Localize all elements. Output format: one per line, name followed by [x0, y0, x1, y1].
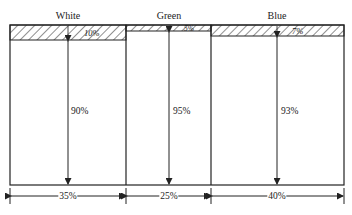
white-width-percent: 35%: [58, 191, 77, 201]
outer-frame: [10, 25, 344, 185]
green-width-percent: 25%: [159, 191, 178, 201]
green-bottom-percent: 95%: [173, 106, 190, 116]
green-top-percent: 5%: [184, 24, 194, 34]
column-header-white: White: [56, 11, 80, 21]
column-header-green: Green: [157, 11, 181, 21]
blue-top-percent: 7%: [292, 26, 303, 36]
column-header-blue: Blue: [268, 11, 287, 21]
blue-bottom-percent: 93%: [281, 106, 298, 116]
green-top-hatch: [126, 25, 211, 31]
blue-width-percent: 40%: [267, 191, 286, 201]
white-bottom-percent: 90%: [71, 106, 88, 116]
white-top-percent: 10%: [84, 28, 100, 38]
blue-top-hatch: [211, 25, 344, 36]
